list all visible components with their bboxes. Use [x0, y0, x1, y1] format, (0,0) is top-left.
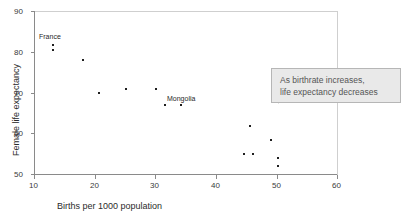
data-point — [252, 153, 254, 155]
point-label-mongolia: Mongolia — [167, 95, 195, 102]
data-point — [82, 59, 84, 61]
x-tick-label-30: 30 — [150, 181, 159, 190]
x-tick-40 — [216, 175, 217, 179]
y-tick-80 — [31, 52, 35, 53]
data-point — [52, 44, 54, 46]
data-point — [52, 49, 54, 51]
y-tick-60 — [31, 133, 35, 134]
x-tick-50 — [277, 175, 278, 179]
point-label-france: France — [39, 33, 61, 40]
y-tick-label-90: 90 — [14, 7, 23, 16]
x-tick-label-20: 20 — [90, 181, 99, 190]
data-point — [277, 165, 279, 167]
trend-callout-box[interactable]: As birthrate increases, life expectancy … — [271, 68, 401, 103]
y-axis-title: Female life expectancy — [11, 64, 21, 156]
y-tick-90 — [31, 11, 35, 12]
x-tick-label-50: 50 — [272, 181, 281, 190]
x-tick-label-40: 40 — [211, 181, 220, 190]
y-tick-label-80: 80 — [14, 48, 23, 57]
x-axis-line — [34, 174, 338, 175]
x-tick-label-10: 10 — [29, 181, 38, 190]
x-tick-60 — [337, 175, 338, 179]
data-point — [98, 92, 100, 94]
y-tick-70 — [31, 93, 35, 94]
callout-leader-line — [0, 0, 409, 220]
x-tick-20 — [95, 175, 96, 179]
data-point — [125, 88, 127, 90]
x-tick-30 — [155, 175, 156, 179]
plot-top-border — [34, 11, 338, 12]
data-point — [249, 125, 251, 127]
x-axis-title: Births per 1000 population — [57, 201, 162, 211]
data-point — [270, 139, 272, 141]
data-point — [180, 104, 182, 106]
scatter-chart: 50 60 70 80 90 10 20 30 40 50 60 Female … — [0, 0, 409, 220]
data-point — [155, 88, 157, 90]
y-tick-label-50: 50 — [14, 170, 23, 179]
x-tick-10 — [34, 175, 35, 179]
data-point — [277, 157, 279, 159]
x-tick-label-60: 60 — [332, 181, 341, 190]
data-point — [243, 153, 245, 155]
trend-callout-text: As birthrate increases, life expectancy … — [280, 74, 378, 98]
data-point — [164, 104, 166, 106]
